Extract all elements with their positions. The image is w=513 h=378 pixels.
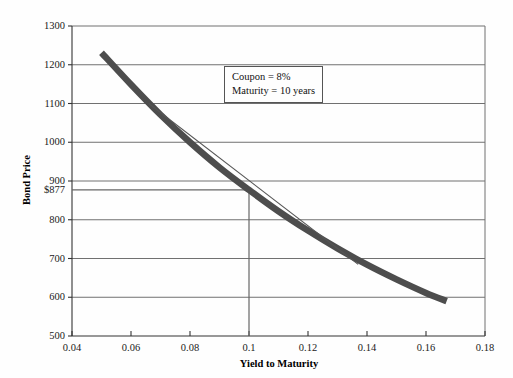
x-tick-label: 0.04 — [63, 343, 81, 354]
y-tick-label: 800 — [49, 215, 65, 226]
y-tick-label: 1000 — [44, 137, 65, 148]
y-tick-label: 700 — [49, 253, 65, 264]
reference-lines — [72, 190, 249, 336]
y-tick-label: 1300 — [44, 21, 65, 32]
x-tick-label: 0.12 — [299, 343, 317, 354]
x-axis-title: Yield to Maturity — [240, 358, 318, 369]
plot-canvas — [0, 0, 513, 378]
x-tick-label: 0.14 — [358, 343, 376, 354]
y-axis-title: Bond Price — [21, 155, 32, 205]
bond-price-chart: 5006007008009001000110012001300$877 0.04… — [0, 0, 513, 378]
x-tick-label: 0.06 — [122, 343, 140, 354]
bond-parameters-box: Coupon = 8% Maturity = 10 years — [224, 66, 323, 103]
annotation-maturity-line: Maturity = 10 years — [232, 84, 315, 98]
y-tick-label: 600 — [49, 292, 65, 303]
y-tick-label: 500 — [49, 331, 65, 342]
annotation-coupon-line: Coupon = 8% — [232, 70, 315, 84]
y-tick-label-highlight-877: $877 — [44, 185, 65, 196]
duration-tangent-line — [149, 104, 358, 265]
y-tick-label: 1100 — [44, 98, 65, 109]
x-tick-label: 0.08 — [181, 343, 199, 354]
x-tick-label: 0.18 — [476, 343, 494, 354]
y-tick-label: 1200 — [44, 60, 65, 71]
x-tick-label: 0.16 — [417, 343, 435, 354]
x-tick-label: 0.1 — [242, 343, 255, 354]
